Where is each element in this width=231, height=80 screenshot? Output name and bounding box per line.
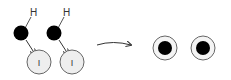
i-label-1: I — [38, 58, 41, 68]
reaction-arrow-icon — [97, 43, 131, 46]
electron-dot-2 — [47, 26, 62, 41]
product-2 — [191, 36, 215, 60]
electron-dot-1 — [14, 26, 29, 41]
reactant-2: H I — [47, 7, 85, 74]
h-label-2: H — [63, 7, 70, 18]
product-1 — [153, 36, 177, 60]
h-label-1: H — [30, 7, 37, 18]
reactant-1: H I — [14, 7, 52, 74]
diagram-canvas: H I H I — [0, 0, 231, 80]
i-label-2: I — [71, 58, 74, 68]
